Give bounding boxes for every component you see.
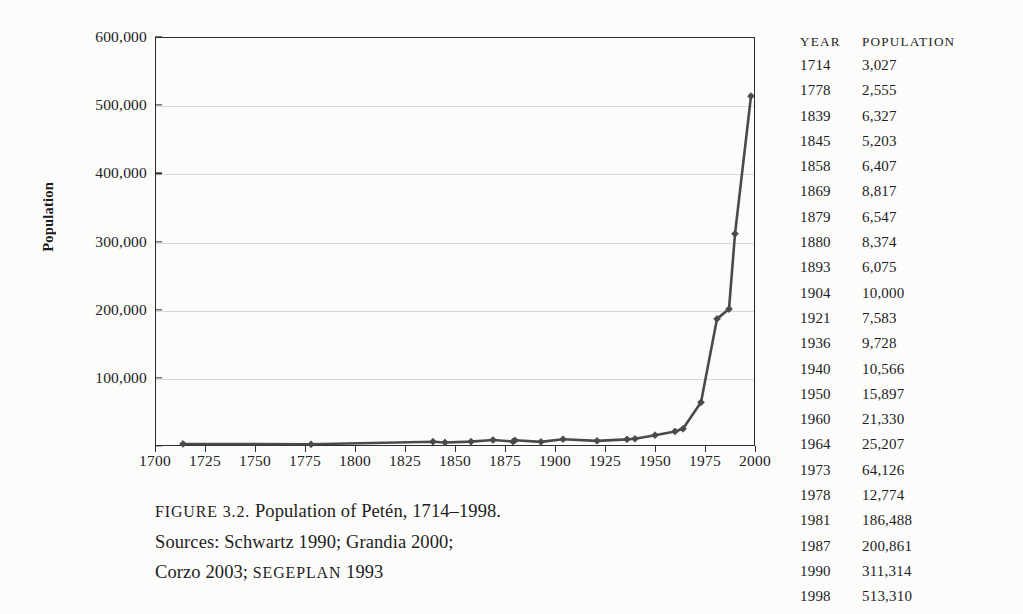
data-point-marker [490, 437, 497, 444]
table-row: 18396,327 [800, 108, 955, 133]
y-tick-mark [155, 173, 162, 174]
table-cell-population: 6,407 [862, 158, 955, 183]
table-row: 18808,374 [800, 234, 955, 259]
y-tick-mark [155, 105, 162, 106]
table-cell-population: 8,374 [862, 234, 955, 259]
y-tick-label: 300,000 [55, 233, 147, 251]
table-cell-year: 1858 [800, 158, 862, 183]
x-tick-label: 1850 [439, 452, 471, 470]
table-row: 194010,566 [800, 361, 955, 386]
table-cell-year: 1936 [800, 335, 862, 360]
table-cell-year: 1978 [800, 487, 862, 512]
table-cell-year: 1973 [800, 462, 862, 487]
x-tick-label: 1950 [639, 452, 671, 470]
table-row: 18455,203 [800, 133, 955, 158]
table-header-year: YEAR [800, 34, 862, 57]
table-cell-year: 1778 [800, 82, 862, 107]
table-cell-population: 6,547 [862, 209, 955, 234]
table-cell-population: 8,817 [862, 183, 955, 208]
table-row: 1981186,488 [800, 512, 955, 537]
table-cell-year: 1879 [800, 209, 862, 234]
table-cell-population: 200,861 [862, 538, 955, 563]
data-table-element: YEAR POPULATION 17143,02717782,55518396,… [800, 34, 955, 614]
x-tick-label: 1825 [389, 452, 421, 470]
table-row: 190410,000 [800, 285, 955, 310]
table-cell-year: 1964 [800, 436, 862, 461]
data-point-marker [538, 438, 545, 445]
table-cell-population: 2,555 [862, 82, 955, 107]
y-tick-label: 100,000 [55, 369, 147, 387]
table-body: 17143,02717782,55518396,32718455,2031858… [800, 57, 955, 614]
table-row: 19369,728 [800, 335, 955, 360]
x-tick-label: 1800 [339, 452, 371, 470]
table-row: 19217,583 [800, 310, 955, 335]
table-cell-population: 7,583 [862, 310, 955, 335]
data-point-marker [308, 441, 315, 448]
figure-caption: FIGURE 3.2. Population of Petén, 1714–19… [155, 496, 755, 588]
table-cell-year: 1940 [800, 361, 862, 386]
data-point-marker [442, 439, 449, 446]
caption-line-sources-2: Corzo 2003; SEGEPLAN 1993 [155, 557, 755, 588]
table-cell-year: 1921 [800, 310, 862, 335]
table-header-row: YEAR POPULATION [800, 34, 955, 57]
table-cell-year: 1845 [800, 133, 862, 158]
data-point-marker [560, 436, 567, 443]
table-cell-population: 311,314 [862, 563, 955, 588]
y-axis-title: Population [40, 182, 66, 252]
x-tick-label: 1900 [539, 452, 571, 470]
y-tick-mark [155, 241, 162, 242]
table-row: 18936,075 [800, 259, 955, 284]
x-tick-label: 1925 [589, 452, 621, 470]
caption-source-corzo: Corzo 2003; [155, 562, 253, 582]
table-cell-population: 513,310 [862, 588, 955, 613]
y-tick-mark [155, 377, 162, 378]
data-point-marker [180, 441, 187, 448]
table-cell-year: 1998 [800, 588, 862, 613]
table-cell-year: 1990 [800, 563, 862, 588]
table-cell-year: 1987 [800, 538, 862, 563]
y-tick-label: 500,000 [55, 96, 147, 114]
table-cell-population: 10,566 [862, 361, 955, 386]
y-tick-mark [155, 36, 162, 37]
table-cell-population: 6,327 [862, 108, 955, 133]
table-cell-year: 1880 [800, 234, 862, 259]
x-tick-label: 1775 [289, 452, 321, 470]
x-tick-label: 1725 [189, 452, 221, 470]
series-line [183, 96, 751, 444]
data-point-marker [732, 230, 739, 237]
table-cell-year: 1904 [800, 285, 862, 310]
data-point-marker [430, 438, 437, 445]
table-cell-population: 9,728 [862, 335, 955, 360]
y-tick-label: 400,000 [55, 164, 147, 182]
y-tick-label: 600,000 [55, 28, 147, 46]
table-row: 17143,027 [800, 57, 955, 82]
data-point-marker [594, 437, 601, 444]
table-cell-year: 1960 [800, 411, 862, 436]
table-row: 196021,330 [800, 411, 955, 436]
table-cell-population: 3,027 [862, 57, 955, 82]
table-row: 1998513,310 [800, 588, 955, 613]
table-cell-population: 21,330 [862, 411, 955, 436]
data-point-marker [468, 438, 475, 445]
x-tick-label: 1875 [489, 452, 521, 470]
y-tick-mark [155, 309, 162, 310]
table-cell-year: 1714 [800, 57, 862, 82]
table-row: 1987200,861 [800, 538, 955, 563]
y-axis-tick-labels: 100,000200,000300,000400,000500,000600,0… [0, 0, 147, 614]
table-row: 1990311,314 [800, 563, 955, 588]
y-tick-label: 200,000 [55, 301, 147, 319]
table-row: 17782,555 [800, 82, 955, 107]
x-tick-label: 2000 [739, 452, 771, 470]
x-tick-label: 1700 [139, 452, 171, 470]
table-cell-year: 1893 [800, 259, 862, 284]
table-cell-year: 1981 [800, 512, 862, 537]
table-row: 197364,126 [800, 462, 955, 487]
data-point-marker [748, 93, 755, 100]
population-data-table: YEAR POPULATION 17143,02717782,55518396,… [800, 34, 1010, 614]
table-row: 18796,547 [800, 209, 955, 234]
caption-figure-label: FIGURE 3.2. [155, 503, 250, 520]
table-cell-year: 1950 [800, 386, 862, 411]
table-cell-population: 12,774 [862, 487, 955, 512]
table-cell-year: 1839 [800, 108, 862, 133]
table-cell-population: 5,203 [862, 133, 955, 158]
